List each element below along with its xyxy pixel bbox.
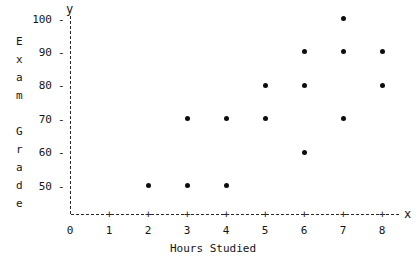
- data-point: [302, 83, 307, 88]
- x-tick-label: 8: [372, 225, 392, 236]
- x-tick-label: 4: [216, 225, 236, 236]
- x-axis-line: [71, 214, 399, 215]
- data-point: [341, 116, 346, 121]
- y-axis-title-letter: G: [16, 126, 23, 137]
- x-tick-mark: +: [301, 209, 308, 220]
- y-axis-title-letter: d: [16, 180, 23, 191]
- x-tick-mark: +: [340, 209, 347, 220]
- data-point: [224, 183, 229, 188]
- x-tick-label: 3: [177, 225, 197, 236]
- y-axis-title-letter: a: [16, 162, 23, 173]
- x-tick-mark: +: [379, 209, 386, 220]
- x-tick-mark: +: [223, 209, 230, 220]
- x-tick-label: 7: [333, 225, 353, 236]
- y-tick-label: 80: [26, 80, 52, 91]
- y-axis-line: [70, 16, 71, 214]
- y-tick-mark: -: [58, 14, 65, 25]
- x-tick-label: 5: [255, 225, 275, 236]
- data-point: [146, 183, 151, 188]
- data-point: [185, 183, 190, 188]
- x-tick-label: 0: [60, 225, 80, 236]
- y-tick-mark: -: [58, 147, 65, 158]
- y-axis-title-letter: x: [16, 54, 23, 65]
- y-tick-label: 100: [26, 14, 52, 25]
- data-point: [380, 49, 385, 54]
- y-tick-mark: -: [58, 47, 65, 58]
- y-axis-name: y: [66, 4, 73, 15]
- data-point: [302, 49, 307, 54]
- data-point: [341, 49, 346, 54]
- y-tick-mark: -: [58, 181, 65, 192]
- x-tick-mark: +: [145, 209, 152, 220]
- x-tick-mark: +: [106, 209, 113, 220]
- y-tick-label: 60: [26, 147, 52, 158]
- data-point: [380, 83, 385, 88]
- x-tick-mark: +: [184, 209, 191, 220]
- y-tick-label: 70: [26, 114, 52, 125]
- x-tick-label: 6: [294, 225, 314, 236]
- data-point: [185, 116, 190, 121]
- data-point: [341, 16, 346, 21]
- x-tick-label: 2: [138, 225, 158, 236]
- y-axis-title-letter: a: [16, 72, 23, 83]
- y-tick-label: 90: [26, 47, 52, 58]
- scatter-plot: y x ExamGrade 50-60-70-80-90-100- 0+1+2+…: [0, 0, 416, 260]
- data-point: [302, 150, 307, 155]
- y-tick-mark: -: [58, 114, 65, 125]
- y-axis-title-letter: m: [16, 90, 23, 101]
- data-point: [263, 116, 268, 121]
- data-point: [224, 116, 229, 121]
- x-tick-mark: +: [262, 209, 269, 220]
- x-axis-title: Hours Studied: [170, 243, 256, 254]
- y-tick-mark: -: [58, 80, 65, 91]
- x-axis-name: x: [404, 209, 411, 220]
- y-axis-title-letter: r: [16, 144, 23, 155]
- y-axis-title-letter: E: [16, 36, 23, 47]
- data-point: [263, 83, 268, 88]
- y-tick-label: 50: [26, 181, 52, 192]
- x-tick-label: 1: [99, 225, 119, 236]
- y-axis-title-letter: e: [16, 198, 23, 209]
